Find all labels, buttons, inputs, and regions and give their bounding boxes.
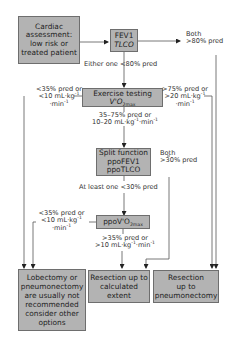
sup: -1 xyxy=(201,91,206,96)
ppovo2-sub: 2max xyxy=(130,222,143,227)
exercise-mid-label: 35–75% pred or 10–20 mL·kg-1·min-1 xyxy=(80,112,170,127)
either-80-label: Either one <80% pred xyxy=(84,61,157,68)
sup: -1 xyxy=(153,117,158,122)
split-function-box: Split function ppoFEV1 ppoTLCO xyxy=(96,148,151,176)
label-line: ·min xyxy=(49,100,64,108)
ppovo2-label: ppoV'O xyxy=(103,217,130,226)
tlco-label: TLCO xyxy=(114,41,134,50)
box-line: up to xyxy=(176,282,195,291)
both-80-label: Both >80% pred xyxy=(186,31,223,46)
sup: -1 xyxy=(77,215,82,220)
sup: -1 xyxy=(75,91,80,96)
sup: -1 xyxy=(64,99,69,104)
box-line: are usually not xyxy=(25,291,80,300)
box-line: treated patient xyxy=(21,49,77,58)
ppotlco-label: ppoTLCO xyxy=(107,166,141,175)
box-line: options xyxy=(38,318,65,327)
exercise-low-label: <35% pred or <10 mL·kg-1 ·min-1 xyxy=(32,86,86,108)
box-line: Resection xyxy=(168,273,204,282)
exercise-testing-box: Exercise testing V'O2max xyxy=(82,88,163,107)
box-line: extent xyxy=(107,291,131,300)
sup: -1 xyxy=(66,223,71,228)
cardiac-assessment-box: Cardiac assessment: low risk or treated … xyxy=(18,16,80,64)
label-line: ·min xyxy=(52,224,67,232)
vo2-label: V'O xyxy=(110,97,123,106)
ppovo2-low-label: <35% pred or <10 mL·kg-1 ·min-1 xyxy=(34,210,89,232)
atleast-30-label: At least one <30% pred xyxy=(79,184,158,191)
box-line: recommended xyxy=(25,300,79,309)
label-line: >30% pred xyxy=(160,157,197,164)
label-line: ·min xyxy=(136,241,151,249)
not-recommended-box: Lobectomy or pneumonectomy are usually n… xyxy=(18,269,86,331)
box-line: Resection up to xyxy=(90,273,147,282)
box-line: Lobectomy or xyxy=(27,273,78,282)
vo2-sub: 2max xyxy=(122,102,135,107)
label-line: 10–20 mL·kg xyxy=(92,118,134,126)
resection-calculated-box: Resection up to calculated extent xyxy=(88,270,150,303)
sup: -1 xyxy=(150,240,155,245)
ppovo2-high-label: >35% pred or >10 mL·kg-1·min-1 xyxy=(80,235,170,250)
exercise-label: Exercise testing xyxy=(93,90,152,98)
box-line: pneumonectomy xyxy=(21,282,84,291)
box-line: pneumonectomy xyxy=(155,291,218,300)
ppovo2max-box: ppoV'O2max xyxy=(96,215,150,229)
fev1-tlco-box: FEV1 TLCO xyxy=(110,29,138,52)
both-30-label: Both >30% pred xyxy=(160,150,197,165)
resection-pneumonectomy-box: Resection up to pneumonectomy xyxy=(153,270,219,303)
label-line: >10 mL·kg xyxy=(95,241,131,249)
sup: -1 xyxy=(190,99,195,104)
label-line: ·min xyxy=(139,118,154,126)
box-line: calculated xyxy=(100,282,138,291)
label-line: >80% pred xyxy=(186,38,223,45)
box-line: consider other xyxy=(25,309,79,318)
label-line: ·min xyxy=(175,100,190,108)
exercise-high-label: >75% pred or >20 mL·kg-1 ·min-1 xyxy=(159,86,211,108)
